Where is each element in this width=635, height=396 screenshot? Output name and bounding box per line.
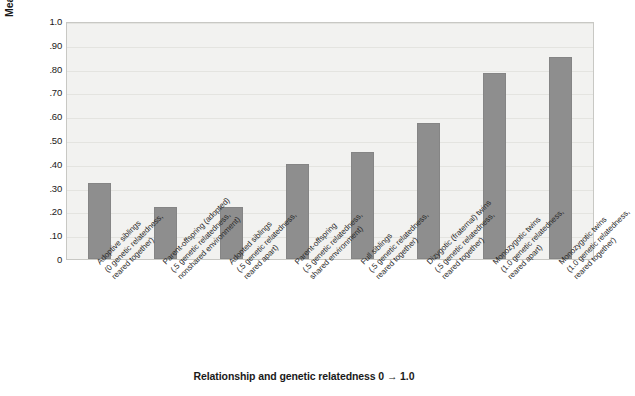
y-axis-tick: 1.0 bbox=[30, 17, 62, 27]
y-axis-tick: .60 bbox=[30, 112, 62, 122]
bar-slot bbox=[67, 23, 133, 259]
y-axis-tick: .70 bbox=[30, 88, 62, 98]
y-axis-tick: .40 bbox=[30, 160, 62, 170]
y-axis-tick: .30 bbox=[30, 184, 62, 194]
y-axis-title: Mean correlation in intelligence bbox=[2, 0, 16, 56]
y-axis-tick: .10 bbox=[30, 231, 62, 241]
x-axis-title: Relationship and genetic relatedness 0 →… bbox=[0, 370, 608, 382]
y-axis-tick: 0 bbox=[30, 255, 62, 265]
y-axis-tick: .90 bbox=[30, 41, 62, 51]
y-axis-tick: .50 bbox=[30, 136, 62, 146]
x-axis-category-labels: Adoptive siblings(0 genetic relatedness,… bbox=[66, 260, 594, 364]
y-axis-tick-labels: 1.0.90.80.70.60.50.40.30.20.100 bbox=[30, 22, 62, 260]
y-axis-tick: .80 bbox=[30, 65, 62, 75]
y-axis-tick: .20 bbox=[30, 207, 62, 217]
